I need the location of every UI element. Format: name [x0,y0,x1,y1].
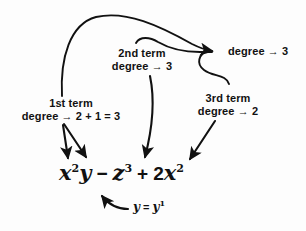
term3-annotation-line1: 3rd term [178,92,278,105]
term2-annotation-line2: degree → 3 [92,60,192,73]
diagram-canvas: 1st term degree → 2 + 1 = 3 2nd term deg… [0,0,306,231]
total-degree-annotation: degree → 3 [228,45,288,58]
arrow-footnote-to-y [102,196,128,209]
footnote-rhs-exponent: 1 [159,198,165,208]
arrow-term2-to-z-cubed [145,76,152,157]
arrow-term3-to-2x-squared [190,121,215,159]
expr-term2-base: z [113,160,125,185]
footnote-equals-sign: = [140,201,152,213]
expr-operator-minus: − [91,163,112,184]
term3-annotation-line2: degree → 2 [178,105,278,118]
expr-term3-exponent: 2 [176,162,184,175]
footnote-y-equals-y-one: y=y1 [133,200,165,214]
expr-term3-coefficient: 2 [153,163,164,184]
expr-term3-base: x [164,160,177,185]
curve-total-degree-to-term3 [199,50,229,84]
term3-annotation: 3rd term degree → 2 [178,92,278,118]
term2-annotation: 2nd term degree → 3 [92,47,192,73]
term1-annotation-line1: 1st term [4,97,138,110]
term1-annotation-line2: degree → 2 + 1 = 3 [4,110,138,123]
term2-annotation-line1: 2nd term [92,47,192,60]
expr-operator-plus: + [132,163,153,184]
term1-annotation: 1st term degree → 2 + 1 = 3 [4,97,138,123]
expr-term2-exponent: 3 [124,162,132,175]
polynomial-expression: x2y−z3+2x2 [59,160,184,185]
expr-term1-base: x [59,160,72,185]
expr-term1-variable: y [79,160,91,185]
footnote-lhs: y [133,200,140,214]
